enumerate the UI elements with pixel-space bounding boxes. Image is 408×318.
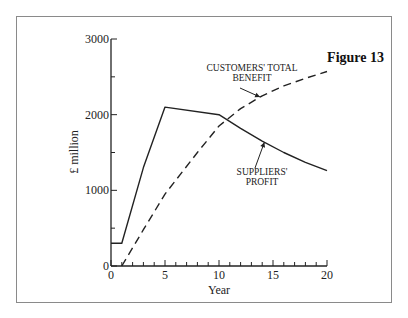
- y-axis-title: £ million: [67, 130, 81, 174]
- annotation-label: PROFIT: [246, 177, 279, 187]
- x-tick-label: 15: [267, 268, 279, 282]
- x-axis-title: Year: [208, 283, 230, 297]
- annotation-label: SUPPLIERS': [237, 167, 288, 177]
- series-group: [111, 72, 327, 267]
- x-tick-label: 10: [213, 268, 225, 282]
- x-tick-label: 20: [321, 268, 333, 282]
- y-tick-label: 1000: [85, 183, 109, 197]
- annotation-label: BENEFIT: [232, 73, 271, 83]
- line-chart: 051015200100020003000 CUSTOMERS' TOTALBE…: [0, 0, 408, 318]
- suppliers-profit-line: [111, 107, 327, 243]
- figure-title: Figure 13: [327, 50, 384, 65]
- x-tick-label: 5: [162, 268, 168, 282]
- y-tick-label: 0: [103, 259, 109, 273]
- annotation-label: CUSTOMERS' TOTAL: [207, 63, 298, 73]
- y-tick-label: 2000: [85, 108, 109, 122]
- customers-benefit-line: [122, 72, 327, 267]
- y-tick-label: 3000: [85, 32, 109, 46]
